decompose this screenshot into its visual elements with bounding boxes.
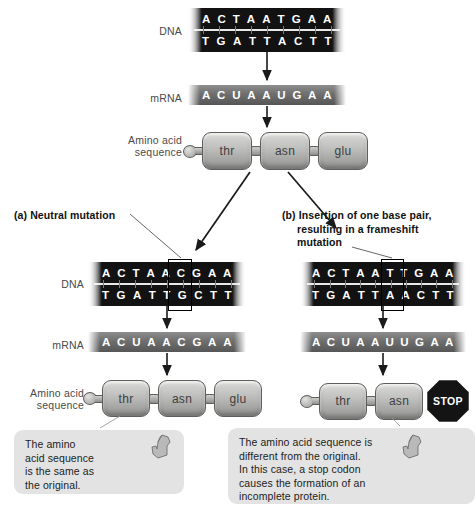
amino-acid-label-original: Amino acid sequence	[90, 134, 182, 158]
amino-acid-glu: glu	[318, 132, 368, 170]
base: G	[192, 267, 201, 279]
base: A	[247, 13, 256, 25]
callout-line: The amino	[25, 438, 150, 452]
base: A	[308, 89, 317, 101]
base: T	[446, 289, 454, 301]
amino-acid-chain-panel-b: thr asn STOP	[300, 380, 469, 422]
base: A	[262, 89, 271, 101]
base: T	[202, 35, 210, 47]
base: U	[341, 336, 350, 348]
base: A	[356, 267, 365, 279]
base: A	[202, 13, 211, 25]
base: A	[223, 336, 232, 348]
amino-acid-label-panel-a: Amino acid sequence	[0, 387, 84, 411]
callout-leader-panel-a	[100, 416, 120, 428]
base: A	[312, 336, 321, 348]
base: C	[417, 289, 426, 301]
base: T	[210, 289, 218, 301]
amino-acid-chain-original: thr asn glu	[183, 132, 368, 170]
base: A	[208, 267, 217, 279]
base: C	[217, 13, 226, 25]
amino-acid-label: thr	[119, 392, 134, 406]
base: A	[162, 336, 171, 348]
base: A	[208, 336, 217, 348]
base: A	[233, 35, 242, 47]
callout-line: causes the formation of an	[239, 477, 441, 491]
amino-acid-glu: glu	[214, 380, 262, 417]
base: T	[312, 289, 320, 301]
amino-acid-label: thr	[220, 144, 235, 158]
panel-b-heading-line2: resulting in a frameshift	[282, 223, 419, 237]
base: U	[132, 336, 141, 348]
base: T	[432, 289, 440, 301]
amino-label-line2: sequence	[135, 146, 182, 158]
panel-b-heading: (b) Insertion of one base pair, resultin…	[282, 209, 472, 250]
amino-label-line1: Amino acid	[128, 134, 182, 146]
callout-line: In this case, a stop codon	[239, 463, 441, 477]
base: U	[232, 89, 241, 101]
base: A	[445, 336, 454, 348]
base: A	[308, 13, 317, 25]
mutation-highlight-box-panel-b	[381, 259, 404, 311]
amino-acid-label: glu	[335, 144, 352, 158]
base: T	[264, 35, 272, 47]
dna-label-original: DNA	[120, 25, 182, 37]
base: C	[117, 267, 126, 279]
base: T	[233, 13, 241, 25]
mrna-strand-panel-b: A C U A A U U G A A	[300, 332, 466, 352]
stop-codon-sign: STOP	[427, 380, 469, 422]
callout-line: is the same as	[25, 465, 150, 479]
dna-label-panel-a: DNA	[22, 278, 84, 290]
base: G	[292, 89, 301, 101]
base: G	[415, 336, 424, 348]
amino-acid-asn: asn	[158, 380, 206, 417]
callout-panel-b: The amino acid sequence is different fro…	[228, 428, 475, 504]
mrna-strand-original: A C U A A U G A A	[188, 85, 346, 105]
callout-panel-a: The amino acid sequence is the same as t…	[14, 430, 184, 494]
base: A	[147, 336, 156, 348]
amino-acid-label: asn	[172, 392, 192, 406]
mrna-strand-panel-a: A C U A A C G A A	[88, 332, 246, 352]
base: A	[323, 13, 332, 25]
amino-label-line1: Amino acid	[30, 387, 84, 399]
amino-acid-thr: thr	[102, 380, 150, 417]
base: A	[102, 336, 111, 348]
base: T	[324, 35, 332, 47]
base: T	[102, 289, 110, 301]
base: T	[149, 289, 157, 301]
mutation-highlight-box-panel-a	[168, 259, 192, 311]
base: A	[102, 267, 111, 279]
amino-acid-asn: asn	[375, 383, 423, 420]
base: G	[292, 13, 301, 25]
base: G	[217, 35, 226, 47]
base: U	[277, 89, 286, 101]
base: A	[262, 13, 271, 25]
base: C	[177, 336, 186, 348]
callout-line: incomplete protein.	[239, 490, 441, 504]
base: A	[430, 267, 439, 279]
amino-acid-thr: thr	[202, 132, 252, 170]
base: A	[371, 267, 380, 279]
base: C	[327, 336, 336, 348]
base: T	[249, 35, 257, 47]
base: A	[445, 267, 454, 279]
base: A	[202, 89, 211, 101]
base: A	[371, 336, 380, 348]
base: C	[194, 289, 203, 301]
mrna-label-original: mRNA	[120, 92, 182, 104]
mrna-label-panel-a: mRNA	[22, 339, 84, 351]
base: A	[342, 289, 351, 301]
base: T	[358, 289, 366, 301]
base: G	[192, 336, 201, 348]
base: A	[247, 89, 256, 101]
amino-acid-asn: asn	[260, 132, 310, 170]
amino-acid-label: asn	[275, 144, 295, 158]
base: A	[430, 336, 439, 348]
base: C	[327, 267, 336, 279]
base: A	[312, 267, 321, 279]
panel-a-heading: (a) Neutral mutation	[14, 209, 194, 223]
base: A	[146, 267, 155, 279]
base: A	[356, 336, 365, 348]
amino-acid-label: glu	[230, 392, 247, 406]
base: U	[386, 336, 395, 348]
